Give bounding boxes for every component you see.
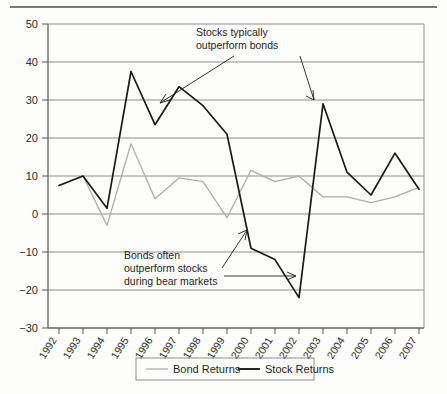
y-label-40: 40 xyxy=(26,56,38,68)
y-tick-marks xyxy=(42,24,48,328)
x-label-2004: 2004 xyxy=(324,335,347,361)
x-label-2003: 2003 xyxy=(300,335,323,361)
x-label-1994: 1994 xyxy=(84,335,107,361)
annotation-stocks-line1: Stocks typically xyxy=(196,26,269,38)
annotation-bonds-line3: during bear markets xyxy=(124,275,217,287)
y-label-10: 10 xyxy=(26,170,38,182)
x-label-1993: 1993 xyxy=(60,335,83,361)
returns-line-chart: 50 40 30 20 10 0 −10 −20 −30 1992 1993 1… xyxy=(0,0,447,394)
annotation-stocks-line2: outperform bonds xyxy=(196,39,278,51)
x-label-2005: 2005 xyxy=(348,335,371,361)
x-label-1999: 1999 xyxy=(204,335,227,361)
x-label-1998: 1998 xyxy=(180,335,203,361)
x-tick-marks xyxy=(59,328,419,334)
y-label-30: 30 xyxy=(26,94,38,106)
annotation-stocks-arrow-line-left xyxy=(160,56,234,103)
x-label-2002: 2002 xyxy=(276,335,299,361)
y-label-50: 50 xyxy=(26,18,38,30)
y-label-neg20: −20 xyxy=(19,284,38,296)
series-line-bond-returns xyxy=(59,144,419,226)
x-axis-labels: 1992 1993 1994 1995 1996 1997 1998 1999 … xyxy=(36,335,419,361)
x-label-1995: 1995 xyxy=(108,335,131,361)
y-label-0: 0 xyxy=(32,208,38,220)
annotation-stocks-outperform: Stocks typically outperform bonds xyxy=(160,26,314,103)
x-label-1997: 1997 xyxy=(156,335,179,361)
x-label-2000: 2000 xyxy=(228,335,251,361)
annotation-stocks-arrow-line-right xyxy=(300,56,314,100)
annotation-bonds-line2: outperform stocks xyxy=(124,262,207,274)
series-line-stock-returns xyxy=(59,72,419,298)
annotation-bonds-line1: Bonds often xyxy=(124,249,180,261)
annotation-bonds-outperform: Bonds often outperform stocks during bea… xyxy=(124,230,296,287)
legend-label-stock: Stock Returns xyxy=(265,363,335,375)
x-label-1992: 1992 xyxy=(36,335,59,361)
y-label-neg10: −10 xyxy=(19,246,38,258)
x-label-2006: 2006 xyxy=(372,335,395,361)
y-label-neg30: −30 xyxy=(19,322,38,334)
legend-label-bond: Bond Returns xyxy=(173,363,241,375)
y-label-20: 20 xyxy=(26,132,38,144)
x-label-2001: 2001 xyxy=(252,335,275,361)
x-label-2007: 2007 xyxy=(396,335,419,361)
x-label-1996: 1996 xyxy=(132,335,155,361)
y-axis-labels: 50 40 30 20 10 0 −10 −20 −30 xyxy=(19,18,38,334)
annotation-bonds-arrow-line-up xyxy=(222,230,247,268)
